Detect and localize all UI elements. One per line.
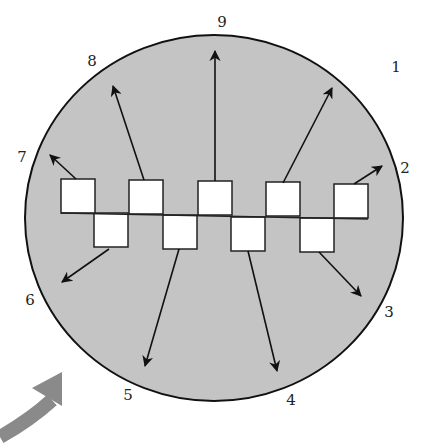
label-5: 5: [123, 386, 133, 404]
label-8: 8: [87, 52, 97, 70]
curved-arrow-icon: [0, 372, 62, 437]
top-square-1: [61, 179, 95, 213]
top-square-5: [334, 184, 368, 218]
label-4: 4: [286, 391, 296, 409]
label-9: 9: [217, 13, 227, 31]
label-2: 2: [400, 159, 410, 177]
diagram-canvas: 123456789: [0, 0, 429, 447]
bottom-square-4: [300, 218, 334, 252]
top-square-2: [129, 180, 163, 214]
bottom-square-2: [163, 215, 197, 249]
label-7: 7: [17, 148, 27, 166]
bottom-square-3: [231, 217, 265, 251]
top-square-3: [198, 181, 232, 215]
top-square-4: [266, 182, 300, 216]
label-1: 1: [391, 58, 401, 76]
bottom-square-1: [94, 213, 128, 247]
label-3: 3: [384, 303, 394, 321]
label-6: 6: [25, 291, 35, 309]
